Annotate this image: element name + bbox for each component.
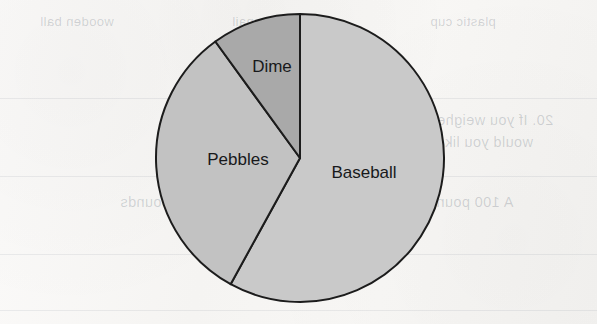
pie-chart-svg: BaseballPebblesDime <box>0 0 597 324</box>
pie-slice-label-dime: Dime <box>252 57 292 76</box>
pie-slice-label-pebbles: Pebbles <box>207 150 268 169</box>
pie-slices <box>156 14 444 302</box>
pie-chart: BaseballPebblesDime <box>0 0 597 324</box>
pie-slice-label-baseball: Baseball <box>331 163 396 182</box>
worksheet-page: wooden balliron nailplastic cup20. If yo… <box>0 0 597 324</box>
